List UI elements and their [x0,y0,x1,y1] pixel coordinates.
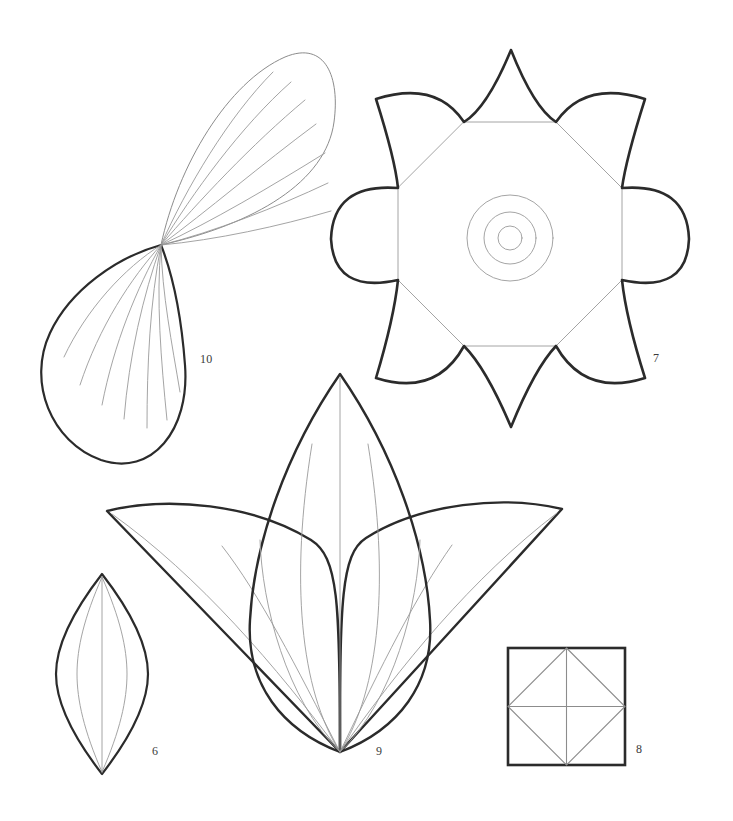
figure-label-8: 8 [636,742,642,757]
figure-label-7: 7 [653,351,659,366]
figure-label-6: 6 [152,744,158,759]
figure-label-10: 10 [200,352,213,367]
figure-plate: 6 7 8 9 10 [0,0,733,821]
figure-label-9: 9 [376,744,382,759]
plate-drawing [0,0,733,821]
